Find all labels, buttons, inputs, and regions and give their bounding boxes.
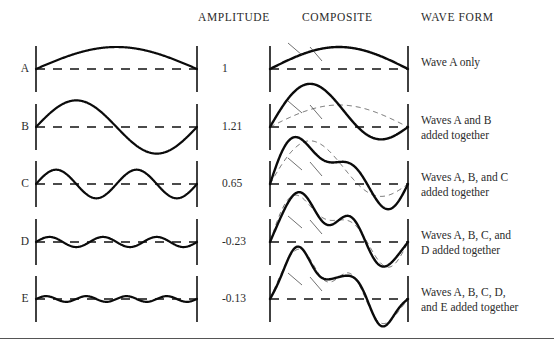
row-label-d: D [16,235,34,247]
leader-mark-lower-row-E [310,277,322,291]
leader-mark-lower-row-C [310,162,322,176]
leader-mark-lower-row-A [310,47,322,61]
amplitude-value-d: -0.23 [222,235,246,247]
component-wave-C [36,170,197,199]
column-header-wave-form: WAVE FORM [421,11,494,23]
composite-guide-previous-row-D [270,195,408,267]
component-wave-A [36,47,197,69]
composite-wave-D [270,192,408,266]
bottom-divider [0,338,554,339]
row-label-e: E [16,292,34,304]
leader-mark-upper-row-C [288,158,302,170]
leader-mark-upper-row-A [288,43,302,55]
amplitude-value-b: 1.21 [222,120,242,132]
amplitude-value-e: -0.13 [222,292,246,304]
component-wave-E [36,296,197,302]
wave-synthesis-figure: AMPLITUDE COMPOSITE WAVE FORM A B C D E … [0,0,554,351]
component-wave-D [36,237,197,247]
wave-form-description-d: Waves A, B, C, and D added together [421,228,553,257]
composite-guide-previous-row-C [270,141,408,197]
leader-mark-upper-row-D [288,216,302,228]
amplitude-value-c: 0.65 [222,177,242,189]
leader-mark-upper-row-B [288,101,302,113]
row-label-c: C [16,177,34,189]
wave-form-description-b: Waves A and B added together [421,113,553,142]
leader-mark-upper-row-E [288,273,302,285]
leader-mark-lower-row-D [310,220,322,234]
column-header-composite: COMPOSITE [302,11,373,23]
composite-wave-B [270,84,408,140]
wave-form-description-c: Waves A, B, and C added together [421,170,553,199]
composite-guide-previous-row-E [270,249,408,323]
composite-guide-previous-row-B [270,105,408,127]
component-wave-B [36,100,197,153]
composite-wave-A [270,47,408,69]
leader-mark-lower-row-B [310,105,322,119]
row-label-b: B [16,120,34,132]
column-header-amplitude: AMPLITUDE [198,11,270,23]
composite-wave-E [270,247,408,327]
composite-wave-C [270,137,408,209]
wave-form-description-e: Waves A, B, C, D, and E added together [421,285,553,314]
row-label-a: A [16,62,34,74]
amplitude-value-a: 1 [222,62,228,74]
wave-form-description-a: Wave A only [421,55,553,70]
